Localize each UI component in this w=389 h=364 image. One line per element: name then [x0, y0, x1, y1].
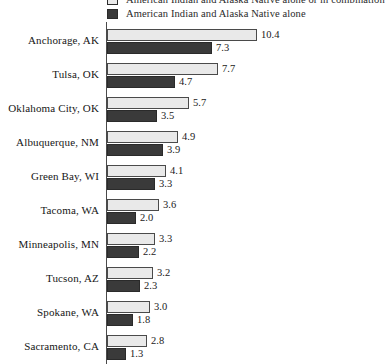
bar-rect [107, 314, 133, 326]
legend-item-label: American Indian and Alaska Native alone … [126, 0, 385, 6]
bar-value-label: 4.7 [179, 76, 192, 88]
category-label: Green Bay, WI [0, 170, 99, 183]
bar-group: Green Bay, WI4.13.3 [0, 164, 389, 198]
bar-value-label: 1.8 [137, 314, 150, 326]
bar-rect [107, 301, 150, 313]
bar-group: Minneapolis, MN3.32.2 [0, 232, 389, 266]
bar-value-label: 3.2 [157, 267, 170, 279]
bar-value-label: 3.0 [154, 301, 167, 313]
bar-alone: 3.3 [107, 178, 172, 190]
bar-alone-or-in-combination: 3.3 [107, 233, 172, 245]
bar-value-label: 2.0 [140, 212, 153, 224]
dark-swatch-icon [107, 9, 118, 19]
bar-group: Spokane, WA3.01.8 [0, 300, 389, 334]
legend-item-alone: American Indian and Alaska Native alone [107, 7, 389, 21]
category-label: Sacramento, CA [0, 340, 99, 353]
bar-group: Sacramento, CA2.81.3 [0, 334, 389, 364]
bar-value-label: 4.1 [170, 165, 183, 177]
category-label: Minneapolis, MN [0, 238, 99, 251]
bar-group: Oklahoma City, OK5.73.5 [0, 96, 389, 130]
bar-rect [107, 335, 147, 347]
bar-value-label: 7.7 [222, 63, 235, 75]
chart-legend: American Indian and Alaska Native alone … [107, 0, 389, 21]
bar-group: Tulsa, OK7.74.7 [0, 62, 389, 96]
bar-rect [107, 131, 178, 143]
bar-value-label: 5.7 [193, 97, 206, 109]
bar-rect [107, 76, 175, 88]
bar-alone: 4.7 [107, 76, 192, 88]
bar-group: Albuquerque, NM4.93.9 [0, 130, 389, 164]
bar-rect [107, 42, 212, 54]
bar-rect [107, 63, 218, 75]
bar-alone-or-in-combination: 10.4 [107, 29, 279, 41]
bar-rect [107, 110, 157, 122]
bar-rect [107, 348, 126, 360]
bar-rect [107, 246, 139, 258]
horizontal-bar-chart: American Indian and Alaska Native alone … [0, 0, 389, 364]
bar-alone: 1.8 [107, 314, 150, 326]
bar-alone: 1.3 [107, 348, 143, 360]
bar-alone: 7.3 [107, 42, 229, 54]
category-label: Tacoma, WA [0, 204, 99, 217]
bar-rect [107, 165, 166, 177]
bar-value-label: 1.3 [130, 348, 143, 360]
bar-alone-or-in-combination: 3.0 [107, 301, 167, 313]
bar-rect [107, 233, 155, 245]
bar-rect [107, 280, 140, 292]
bar-alone: 3.5 [107, 110, 174, 122]
bar-alone-or-in-combination: 5.7 [107, 97, 206, 109]
bar-alone-or-in-combination: 4.1 [107, 165, 183, 177]
bar-value-label: 2.8 [151, 335, 164, 347]
legend-item-alone-or-in-combination: American Indian and Alaska Native alone … [107, 0, 389, 7]
bar-alone: 2.3 [107, 280, 157, 292]
bar-value-label: 10.4 [261, 29, 279, 41]
bar-rect [107, 212, 136, 224]
bar-value-label: 3.3 [159, 233, 172, 245]
category-label: Tulsa, OK [0, 68, 99, 81]
bar-alone-or-in-combination: 3.2 [107, 267, 170, 279]
bar-alone-or-in-combination: 7.7 [107, 63, 235, 75]
bar-rect [107, 97, 189, 109]
bar-rect [107, 29, 257, 41]
bar-alone: 3.9 [107, 144, 180, 156]
bar-value-label: 3.5 [161, 110, 174, 122]
category-label: Anchorage, AK [0, 34, 99, 47]
light-swatch-icon [107, 0, 118, 5]
bar-rect [107, 178, 155, 190]
bar-value-label: 3.3 [159, 178, 172, 190]
bar-group: Tacoma, WA3.62.0 [0, 198, 389, 232]
category-label: Tucson, AZ [0, 272, 99, 285]
bar-alone: 2.2 [107, 246, 156, 258]
bar-alone-or-in-combination: 3.6 [107, 199, 176, 211]
legend-item-label: American Indian and Alaska Native alone [126, 8, 306, 20]
bar-rect [107, 267, 153, 279]
category-label: Albuquerque, NM [0, 136, 99, 149]
bar-value-label: 3.6 [163, 199, 176, 211]
bar-value-label: 7.3 [216, 42, 229, 54]
bar-value-label: 4.9 [182, 131, 195, 143]
bar-alone-or-in-combination: 4.9 [107, 131, 195, 143]
bar-group: Tucson, AZ3.22.3 [0, 266, 389, 300]
bar-rect [107, 199, 159, 211]
bar-alone: 2.0 [107, 212, 153, 224]
plot-area: Anchorage, AK10.47.3Tulsa, OK7.74.7Oklah… [0, 22, 389, 364]
bar-value-label: 2.3 [144, 280, 157, 292]
bar-rect [107, 144, 163, 156]
category-label: Spokane, WA [0, 306, 99, 319]
bar-value-label: 3.9 [167, 144, 180, 156]
category-label: Oklahoma City, OK [0, 102, 99, 115]
bar-alone-or-in-combination: 2.8 [107, 335, 164, 347]
bar-group: Anchorage, AK10.47.3 [0, 28, 389, 62]
bar-value-label: 2.2 [143, 246, 156, 258]
